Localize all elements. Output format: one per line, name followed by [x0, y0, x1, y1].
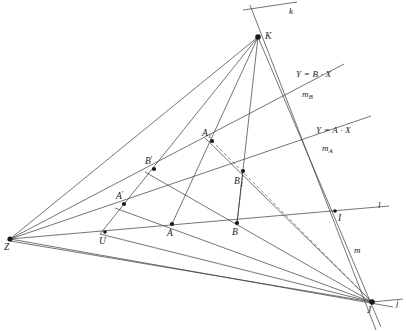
- line-label-mB: mB: [302, 90, 313, 99]
- point-marker-K: [255, 34, 261, 40]
- point-label-U: U: [99, 237, 106, 247]
- point-marker-A: [170, 222, 174, 226]
- eq-a: Y = A · X: [316, 126, 351, 135]
- figure-canvas: [0, 0, 406, 331]
- point-label-Z: Z: [4, 243, 9, 253]
- point-label-Bp: B′: [145, 157, 153, 167]
- line-Z-to-J-low: [10, 241, 372, 302]
- geometry-figure: ZKJUABA′B′A1B1IklmjmAmBY = B · XY = A · …: [0, 0, 406, 331]
- line-label-mA: mA: [322, 144, 333, 153]
- lines-group: [10, 2, 403, 330]
- point-label-K: K: [265, 32, 271, 42]
- point-marker-I: [333, 209, 337, 213]
- point-marker-B1: [241, 169, 245, 173]
- point-label-B: B: [232, 228, 238, 238]
- line-J-to-Bprime: [145, 172, 372, 302]
- point-label-J: J: [367, 306, 371, 316]
- point-label-I: I: [338, 214, 341, 224]
- line-Z-to-K: [10, 37, 258, 239]
- point-label-B1: B1: [234, 177, 243, 187]
- line-label-j: j: [396, 299, 399, 308]
- line-J-to-U: [100, 234, 372, 302]
- point-label-Ap: A′: [116, 192, 124, 202]
- eq-b: Y = B · X: [296, 70, 331, 79]
- line-label-k: k: [289, 7, 293, 16]
- line-J-to-Aprime: [115, 208, 372, 302]
- line-K-to-A: [172, 37, 258, 224]
- line-label-l: l: [378, 201, 381, 210]
- point-marker-Z: [7, 236, 12, 241]
- line-j-through-J: [250, 5, 376, 330]
- line-label-m: m: [354, 246, 361, 255]
- point-marker-U: [103, 230, 107, 234]
- point-marker-Bp: [152, 167, 156, 171]
- point-marker-Ap: [122, 202, 126, 206]
- point-label-A: A: [167, 229, 173, 239]
- point-marker-A1: [210, 139, 214, 143]
- point-marker-J: [369, 299, 375, 305]
- point-label-A1: A1: [202, 129, 211, 139]
- line-m: [258, 37, 381, 327]
- point-marker-B: [235, 221, 239, 225]
